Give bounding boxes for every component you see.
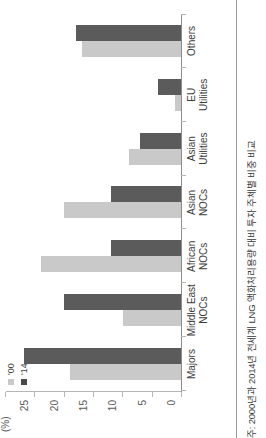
category-label-line: NOCs	[198, 176, 210, 230]
y-axis-line	[6, 391, 182, 392]
bar-00	[64, 203, 181, 219]
y-axis-tick	[64, 392, 65, 397]
category-label: EUUtilities	[186, 68, 210, 122]
category-label: AsianUtilities	[186, 122, 210, 176]
y-axis-tick-label: 0	[166, 400, 177, 406]
bar-group	[6, 14, 181, 68]
bar-group	[6, 283, 181, 337]
bar-00	[82, 41, 181, 57]
category-label-line: NOCs	[198, 229, 210, 283]
y-axis-tick	[122, 392, 123, 397]
bar-14	[111, 187, 181, 203]
category-label-line: African	[186, 229, 198, 283]
category-label: AfricanNOCs	[186, 229, 210, 283]
bar-group	[6, 176, 181, 230]
bar-14	[111, 240, 181, 256]
category-label-line: Majors	[186, 337, 198, 391]
y-axis-tick-label: 30	[0, 400, 1, 411]
bars	[6, 122, 181, 176]
category-label-line: Middle East	[186, 283, 198, 337]
y-axis-tick-label: 25	[19, 400, 30, 411]
horizontal-rule	[236, 0, 237, 438]
bar-group	[6, 122, 181, 176]
y-axis-tick	[5, 392, 6, 397]
category-label-line: Utilities	[198, 68, 210, 122]
y-axis-tick	[93, 392, 94, 397]
y-axis-tick-label: 5	[136, 400, 147, 406]
bar-00	[70, 364, 181, 380]
footnote-text: 주: 2000년과 2014년 전세계 LNG 액화처리용량 대비 투자 주체별…	[244, 140, 258, 438]
category-label-line: Others	[186, 14, 198, 68]
bar-00	[41, 256, 181, 272]
bar-14	[24, 348, 182, 364]
y-axis-tick-label: 20	[48, 400, 59, 411]
bar-groups	[6, 14, 181, 391]
bar-14	[76, 25, 181, 41]
category-label-line: Asian	[186, 122, 198, 176]
rotated-figure-wrapper: '00 '14 051015202530 (%) MajorsMiddle Ea…	[0, 0, 266, 438]
y-axis-tick	[34, 392, 35, 397]
bars	[6, 229, 181, 283]
category-label: Middle EastNOCs	[186, 283, 210, 337]
category-label: Majors	[186, 337, 210, 391]
bars	[6, 176, 181, 230]
category-label: AsianNOCs	[186, 176, 210, 230]
bar-chart-figure: '00 '14 051015202530 (%) MajorsMiddle Ea…	[0, 0, 230, 438]
category-label-line: NOCs	[198, 283, 210, 337]
bar-00	[175, 95, 181, 111]
bars	[6, 14, 181, 68]
bar-group	[6, 337, 181, 391]
bar-14	[140, 133, 181, 149]
bar-00	[129, 149, 182, 165]
category-axis-labels: MajorsMiddle EastNOCsAfricanNOCsAsianNOC…	[186, 14, 210, 391]
bar-group	[6, 229, 181, 283]
y-axis-tick-label: 10	[107, 400, 118, 411]
footnote-area: 주: 2000년과 2014년 전세계 LNG 액화처리용량 대비 투자 주체별…	[236, 0, 266, 438]
plot-area: 051015202530	[6, 14, 182, 392]
axis-unit-label: (%)	[0, 416, 11, 432]
category-label-line: Utilities	[198, 122, 210, 176]
y-axis-tick-label: 15	[78, 400, 89, 411]
category-label: Others	[186, 14, 210, 68]
category-label-line: EU	[186, 68, 198, 122]
category-label-line: Asian	[186, 176, 198, 230]
bar-14	[158, 79, 181, 95]
bar-00	[123, 310, 181, 326]
bars	[6, 283, 181, 337]
bars	[6, 337, 181, 391]
chart-page: '00 '14 051015202530 (%) MajorsMiddle Ea…	[0, 0, 266, 438]
bar-group	[6, 68, 181, 122]
bar-14	[64, 294, 181, 310]
bars	[6, 68, 181, 122]
y-axis-tick	[152, 392, 153, 397]
y-axis-tick	[181, 392, 182, 397]
